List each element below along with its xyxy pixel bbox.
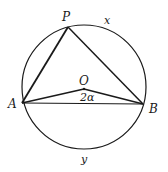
- label-angle: 2α: [79, 91, 95, 104]
- label-arc-y: y: [80, 153, 88, 166]
- label-o: O: [79, 74, 89, 88]
- label-arc-x: x: [104, 14, 111, 27]
- diagram-canvas: P x O 2α A B y: [0, 0, 168, 172]
- circle-diagram: P x O 2α A B y: [0, 0, 168, 172]
- label-a: A: [7, 97, 17, 111]
- center-dot: [83, 88, 85, 90]
- radius-oa: [22, 89, 84, 103]
- label-b: B: [148, 102, 158, 116]
- label-p: P: [61, 10, 71, 24]
